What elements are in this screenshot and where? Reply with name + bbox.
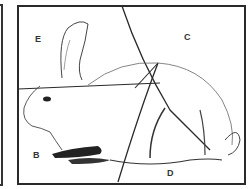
rabbit-eye [43,97,51,102]
region-label-c: C [184,32,191,42]
rabbit-back [88,63,233,145]
rabbit-ear [61,22,88,80]
rabbit-illustration [0,0,249,189]
region-label-d: D [167,168,174,178]
rabbit-hind-leg [150,108,165,158]
rabbit-head [24,86,62,150]
rabbit-belly [110,159,222,164]
region-label-e: E [35,34,41,44]
rabbit-front-feet [52,146,102,158]
region-label-b: B [33,150,40,160]
